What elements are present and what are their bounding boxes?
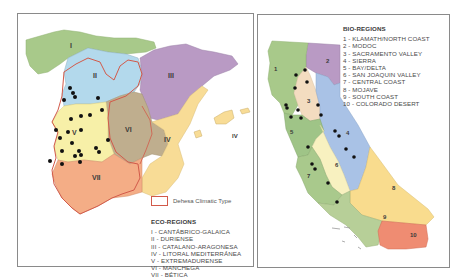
label-10: 10 — [410, 232, 417, 238]
eco-regions-legend: ECO-REGIONS I - CANTÁBRICO-GALAICA II - … — [151, 218, 241, 278]
label-II: II — [93, 72, 97, 79]
region-10 — [378, 221, 428, 249]
legend-item: 6 - SAN JOAQUIN VALLEY — [343, 71, 430, 78]
label-IV-islands: IV — [232, 133, 238, 139]
bio-regions-legend-title: BIO-REGIONS — [343, 25, 430, 32]
region-V — [52, 102, 114, 162]
legend-item: II - DURIENSE — [151, 235, 241, 242]
california-bio-regions-map: 1 2 3 4 5 6 7 8 9 10 BIO-REGIONS 1 - KLA… — [257, 14, 450, 268]
legend-item: 5 - BAY/DELTA — [343, 64, 430, 71]
legend-item: 10 - COLORADO DESERT — [343, 100, 430, 107]
dehesa-key-label: Dehesa Climatic Type — [173, 198, 231, 204]
legend-item: 2 - MODOC — [343, 42, 430, 49]
label-VII: VII — [92, 174, 101, 181]
eco-regions-legend-title: ECO-REGIONS — [151, 218, 241, 225]
region-IV-menorca — [240, 108, 250, 114]
legend-item: 3 - SACRAMENTO VALLEY — [343, 50, 430, 57]
label-I: I — [70, 42, 72, 49]
bio-regions-legend: BIO-REGIONS 1 - KLAMATH/NORTH COAST 2 - … — [343, 25, 430, 107]
legend-item: 8 - MOJAVE — [343, 86, 430, 93]
label-III: III — [168, 72, 174, 79]
region-IV-ibiza — [194, 130, 202, 138]
dehesa-climatic-key: Dehesa Climatic Type — [151, 196, 231, 206]
legend-item: 9 - SOUTH COAST — [343, 93, 430, 100]
dehesa-swatch — [151, 196, 168, 206]
label-V: V — [72, 129, 77, 136]
legend-item: 4 - SIERRA — [343, 57, 430, 64]
legend-item: I - CANTÁBRICO-GALAICA — [151, 228, 241, 235]
label-IV: IV — [164, 136, 171, 143]
legend-item: III - CATALANO-ARAGONESA — [151, 243, 241, 250]
legend-item: V - EXTREMADURENSE — [151, 257, 241, 264]
legend-item: VI - MANCHEGA — [151, 264, 241, 271]
spain-eco-regions-map: I II III IV IV V VI VII Dehesa Climatic … — [17, 13, 254, 267]
legend-item: VII - BÉTICA — [151, 271, 241, 278]
legend-item: 7 - CENTRAL COAST — [343, 78, 430, 85]
legend-item: IV - LITORAL MEDITERRÁNEA — [151, 250, 241, 257]
region-VII — [52, 154, 142, 214]
legend-item: 1 - KLAMATH/NORTH COAST — [343, 35, 430, 42]
label-VI: VI — [125, 126, 132, 133]
region-IV-mallorca — [214, 110, 234, 124]
